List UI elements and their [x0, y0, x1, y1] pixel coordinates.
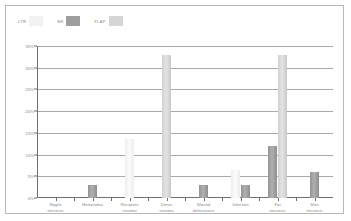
y-tick-label: 35%	[25, 44, 34, 49]
x-tick-separator	[185, 198, 186, 201]
y-tick-label: 25%	[25, 87, 34, 92]
bar-group	[148, 46, 185, 198]
y-tick-mark	[34, 132, 37, 133]
bar-group	[37, 46, 74, 198]
legend-item-br[interactable]: BR	[57, 16, 80, 26]
x-tick-mark	[315, 198, 316, 201]
legend-label-ltr: LTR	[18, 19, 26, 24]
x-tick-separator	[148, 198, 149, 201]
x-tick-separator	[74, 198, 75, 201]
y-tick-mark	[34, 176, 37, 177]
chart-frame: LTR BR FLAP 35%30%25%20%15%10%5%0% Nippl…	[5, 5, 344, 214]
y-tick-mark	[34, 154, 37, 155]
x-tick-mark	[204, 198, 205, 201]
x-tick-mark	[278, 198, 279, 201]
y-tick-mark	[34, 67, 37, 68]
chart-legend: LTR BR FLAP	[18, 13, 123, 29]
x-tick-mark	[241, 198, 242, 201]
x-axis-label: Hematoma	[74, 202, 111, 214]
x-axis-label: Wound dehiscence	[185, 202, 222, 214]
y-tick-label: 0%	[28, 196, 34, 201]
y-tick-mark	[34, 46, 37, 47]
x-axis-label: Recipient seroma	[111, 202, 148, 214]
bar-flap[interactable]	[278, 55, 287, 198]
legend-item-flap[interactable]: FLAP	[94, 16, 122, 26]
bar-flap[interactable]	[162, 55, 171, 198]
y-tick-mark	[34, 111, 37, 112]
x-axis-label: Fat necrosis	[259, 202, 296, 214]
x-tick-mark	[93, 198, 94, 201]
x-tick-mark	[167, 198, 168, 201]
y-tick-mark	[34, 89, 37, 90]
y-tick-label: 10%	[25, 152, 34, 157]
bar-group	[74, 46, 111, 198]
x-axis-label: Infection	[222, 202, 259, 214]
legend-swatch-ltr	[29, 16, 43, 26]
legend-item-ltr[interactable]: LTR	[18, 16, 43, 26]
bar-br[interactable]	[268, 146, 277, 198]
bar-ltr[interactable]	[231, 170, 240, 198]
legend-swatch-br	[66, 16, 80, 26]
bar-br[interactable]	[310, 172, 319, 198]
legend-swatch-flap	[109, 16, 123, 26]
legend-label-flap: FLAP	[94, 19, 105, 24]
bar-group	[222, 46, 259, 198]
bar-br[interactable]	[199, 185, 208, 198]
bar-group	[185, 46, 222, 198]
legend-label-br: BR	[57, 19, 63, 24]
plot-area: 35%30%25%20%15%10%5%0%	[37, 46, 333, 198]
bar-series-container	[37, 46, 333, 198]
x-axis-label: Skin necrosis	[296, 202, 333, 214]
x-axis-label: Nipple necrosis	[37, 202, 74, 214]
bar-ltr[interactable]	[125, 139, 134, 198]
x-tick-separator	[296, 198, 297, 201]
bar-group	[111, 46, 148, 198]
x-tick-mark	[130, 198, 131, 201]
bar-br[interactable]	[241, 185, 250, 198]
y-tick-label: 15%	[25, 130, 34, 135]
bar-group	[296, 46, 333, 198]
y-tick-label: 5%	[28, 174, 34, 179]
x-tick-separator	[222, 198, 223, 201]
x-tick-separator	[259, 198, 260, 201]
x-axis-labels: Nipple necrosisHematomaRecipient seromaD…	[37, 202, 333, 214]
y-tick-label: 30%	[25, 65, 34, 70]
bar-group	[259, 46, 296, 198]
x-tick-separator	[111, 198, 112, 201]
y-tick-label: 20%	[25, 109, 34, 114]
x-axis-label: Donor seroma	[148, 202, 185, 214]
x-tick-mark	[56, 198, 57, 201]
bar-br[interactable]	[88, 185, 97, 198]
y-tick-mark	[34, 198, 37, 199]
